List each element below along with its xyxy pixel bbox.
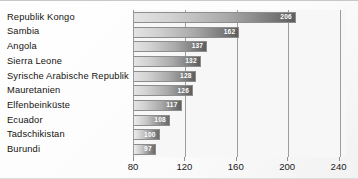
bar-value-label: 206 — [280, 14, 295, 21]
bar[interactable]: 162 — [134, 27, 239, 38]
category-label: Burundi — [0, 142, 131, 157]
bar-row: 128 — [134, 69, 346, 84]
bar[interactable]: 100 — [134, 129, 160, 140]
bar[interactable]: 108 — [134, 115, 170, 126]
bar-value-label: 137 — [192, 43, 207, 50]
bar-row: 97 — [134, 142, 346, 157]
bar[interactable]: 137 — [134, 41, 207, 52]
bar-series: 206 162 137 132 128 — [134, 10, 346, 157]
bar-value-label: 162 — [224, 29, 239, 36]
bar-row: 132 — [134, 54, 346, 69]
category-label: Republik Kongo — [0, 10, 131, 25]
bar-value-label: 126 — [177, 88, 192, 95]
bar-row: 117 — [134, 98, 346, 113]
bar-row: 126 — [134, 84, 346, 99]
axis-tick-label: 80 — [128, 162, 139, 172]
axis-tick-label: 200 — [279, 162, 295, 172]
bar[interactable]: 97 — [134, 144, 156, 155]
bar-row: 206 — [134, 10, 346, 25]
bar-value-label: 100 — [144, 132, 159, 139]
bar[interactable]: 132 — [134, 56, 201, 67]
bar-row: 162 — [134, 25, 346, 40]
bar[interactable]: 126 — [134, 85, 193, 96]
axis-tick-label: 120 — [176, 162, 192, 172]
bar-chart: Republik Kongo Sambia Angola Sierra Leon… — [0, 0, 358, 179]
plot-area: 206 162 137 132 128 — [133, 10, 346, 157]
category-label: Sambia — [0, 25, 131, 40]
bar-row: 108 — [134, 113, 346, 128]
bar-row: 100 — [134, 128, 346, 143]
bar-value-label: 108 — [154, 117, 169, 124]
bar-value-label: 132 — [185, 58, 200, 65]
category-label: Tadschikistan — [0, 128, 131, 143]
value-axis: 80120160200240 — [133, 157, 346, 177]
axis-tick-label: 240 — [331, 162, 347, 172]
bar-value-label: 128 — [180, 73, 195, 80]
bar[interactable]: 206 — [134, 12, 296, 23]
bar-value-label: 97 — [144, 146, 155, 153]
category-label: Mauretanien — [0, 84, 131, 99]
bar-row: 137 — [134, 39, 346, 54]
axis-tick-label: 160 — [228, 162, 244, 172]
category-label: Syrische Arabische Republik — [0, 69, 131, 84]
category-label: Sierra Leone — [0, 54, 131, 69]
bar[interactable]: 117 — [134, 100, 182, 111]
category-label: Elfenbeinküste — [0, 98, 131, 113]
bar-value-label: 117 — [166, 102, 180, 109]
category-axis: Republik Kongo Sambia Angola Sierra Leon… — [0, 10, 131, 157]
bar[interactable]: 128 — [134, 71, 196, 82]
category-label: Angola — [0, 39, 131, 54]
category-label: Ecuador — [0, 113, 131, 128]
